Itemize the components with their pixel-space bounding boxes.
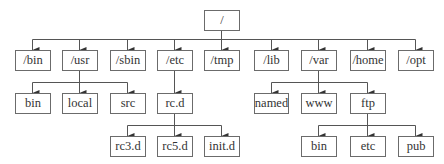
node-usr-src: src [110, 93, 146, 114]
node-initd: init.d [204, 136, 240, 157]
node-label: / [220, 13, 223, 28]
node-label: /lib [263, 53, 280, 68]
node-lib: /lib [254, 50, 289, 71]
node-label: /var [309, 53, 328, 68]
node-root: / [204, 10, 240, 31]
node-sbin: /sbin [110, 50, 146, 71]
node-label: etc [361, 139, 376, 154]
node-label: /etc [166, 53, 184, 68]
node-ftp-bin: bin [301, 136, 337, 157]
node-var-ftp: ftp [350, 93, 386, 114]
node-ftp-pub: pub [398, 136, 434, 157]
node-label: bin [25, 96, 41, 111]
node-usr: /usr [62, 50, 98, 71]
node-var-named: named [254, 93, 289, 114]
node-label: local [68, 96, 92, 111]
node-opt: /opt [398, 50, 434, 71]
node-label: /home [352, 53, 383, 68]
node-label: named [255, 96, 288, 111]
node-label: /tmp [211, 53, 234, 68]
node-label: rc5.d [162, 139, 187, 154]
directory-tree-diagram: / /bin /usr /sbin /etc /tmp /lib /var /h… [0, 0, 444, 164]
node-var: /var [301, 50, 337, 71]
node-label: www [305, 96, 332, 111]
node-label: init.d [209, 139, 235, 154]
node-label: pub [407, 139, 426, 154]
node-tmp: /tmp [204, 50, 240, 71]
node-ftp-etc: etc [350, 136, 386, 157]
node-label: /usr [71, 53, 90, 68]
node-label: /sbin [116, 53, 140, 68]
node-rc5d: rc5.d [157, 136, 193, 157]
node-bin: /bin [15, 50, 51, 71]
node-label: /opt [406, 53, 425, 68]
node-label: bin [311, 139, 327, 154]
node-home: /home [350, 50, 386, 71]
node-etc-rcd: rc.d [157, 93, 193, 114]
node-label: /bin [23, 53, 42, 68]
node-label: src [121, 96, 136, 111]
node-label: rc3.d [115, 139, 140, 154]
node-etc: /etc [157, 50, 193, 71]
node-usr-local: local [62, 93, 98, 114]
node-rc3d: rc3.d [110, 136, 146, 157]
node-usr-bin: bin [15, 93, 51, 114]
node-label: rc.d [165, 96, 184, 111]
node-label: ftp [361, 96, 375, 111]
node-var-www: www [301, 93, 337, 114]
